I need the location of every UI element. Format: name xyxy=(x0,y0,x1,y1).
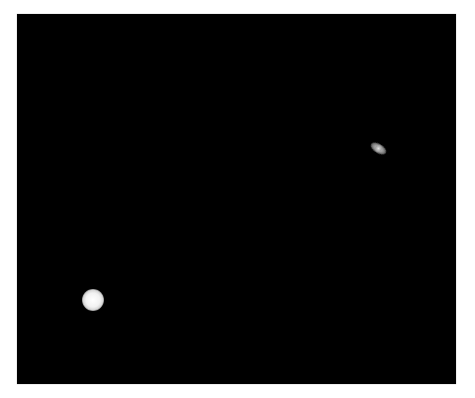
ringed-planet-saturn-body xyxy=(375,145,382,152)
page xyxy=(0,0,475,398)
bright-planet-jupiter xyxy=(82,289,104,311)
night-sky-photo xyxy=(17,14,456,384)
